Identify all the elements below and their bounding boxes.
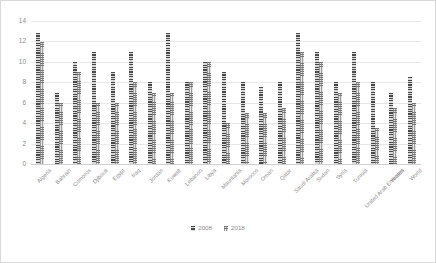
bar-group: [68, 21, 87, 164]
x-tick-cell: Tunisia: [347, 166, 366, 216]
y-tick-label-0: 0: [22, 161, 26, 168]
bar-2018: [77, 72, 81, 164]
x-tick-label: Iraq: [131, 168, 142, 179]
x-tick-cell: Morocco: [235, 166, 254, 216]
x-tick-cell: Algeria: [31, 166, 50, 216]
bar-group: [254, 21, 273, 164]
chart-container: 02468101214 AlgeriaBahrainComorosDjibout…: [0, 0, 436, 263]
bar-group: [198, 21, 217, 164]
bar-group: [403, 21, 422, 164]
bar-group: [180, 21, 199, 164]
x-tick-cell: Saudi Arabia: [291, 166, 310, 216]
bar-2018: [207, 62, 211, 164]
x-tick-cell: Libya: [198, 166, 217, 216]
bar-group: [384, 21, 403, 164]
bar-group: [273, 21, 292, 164]
bar-2018: [393, 108, 397, 164]
bar-group: [87, 21, 106, 164]
bar-2018: [152, 93, 156, 165]
bar-group: [365, 21, 384, 164]
bar-2018: [170, 93, 174, 165]
bar-group: [347, 21, 366, 164]
bar-2018: [226, 123, 230, 164]
x-axis: AlgeriaBahrainComorosDjiboutiEgyptIraqJo…: [31, 166, 421, 216]
y-tick-label-14: 14: [19, 18, 26, 25]
gridline-0: [31, 164, 421, 165]
y-tick-label-4: 4: [22, 120, 26, 127]
bar-2018: [40, 42, 44, 164]
legend-item-2008[interactable]: 2008: [191, 225, 212, 231]
legend-item-2018[interactable]: 2018: [224, 225, 245, 231]
x-tick-cell: Jordan: [142, 166, 161, 216]
bar-group: [50, 21, 69, 164]
x-tick-cell: Oman: [254, 166, 273, 216]
x-tick-cell: United Arab Emirates: [365, 166, 384, 216]
x-tick-cell: Comoros: [68, 166, 87, 216]
bar-groups: [31, 21, 421, 164]
y-tick-label-6: 6: [22, 99, 26, 106]
plot-area: [31, 21, 421, 164]
bar-group: [291, 21, 310, 164]
bar-2018: [263, 113, 267, 164]
bar-2018: [245, 113, 249, 164]
bar-2018: [59, 103, 63, 164]
legend-swatch-2008: [191, 226, 195, 231]
y-axis: 02468101214: [1, 21, 29, 164]
bar-group: [161, 21, 180, 164]
bar-2018: [338, 93, 342, 165]
y-tick-label-12: 12: [19, 38, 26, 45]
bar-2018: [96, 103, 100, 164]
bar-group: [142, 21, 161, 164]
x-tick-cell: Djibouti: [87, 166, 106, 216]
y-tick-label-8: 8: [22, 79, 26, 86]
y-tick-label-2: 2: [22, 140, 26, 147]
x-tick-cell: Yemen: [384, 166, 403, 216]
legend-label-2008: 2008: [198, 225, 212, 231]
bar-2018: [412, 103, 416, 164]
bar-group: [235, 21, 254, 164]
bar-group: [105, 21, 124, 164]
y-tick-label-10: 10: [19, 59, 26, 66]
bar-group: [217, 21, 236, 164]
x-tick-cell: Lebanon: [180, 166, 199, 216]
x-tick-cell: Mauritania: [217, 166, 236, 216]
x-tick-cell: Bahrain: [50, 166, 69, 216]
bar-2018: [282, 108, 286, 164]
legend-label-2018: 2018: [231, 225, 245, 231]
bar-group: [31, 21, 50, 164]
x-tick-cell: Qatar: [273, 166, 292, 216]
bar-group: [328, 21, 347, 164]
x-tick-label: World: [409, 168, 423, 182]
bar-2018: [189, 82, 193, 164]
x-tick-cell: World: [403, 166, 422, 216]
chart-legend: 20082018: [1, 225, 435, 231]
legend-swatch-2018: [224, 226, 228, 231]
bar-group: [310, 21, 329, 164]
x-tick-cell: Kuwait: [161, 166, 180, 216]
bar-2018: [356, 82, 360, 164]
bar-2018: [133, 82, 137, 164]
x-tick-cell: Sudan: [310, 166, 329, 216]
x-tick-cell: Egypt: [105, 166, 124, 216]
x-tick-cell: Syria: [328, 166, 347, 216]
bar-2018: [319, 62, 323, 164]
bar-group: [124, 21, 143, 164]
bar-2018: [300, 52, 304, 164]
bar-2018: [375, 128, 379, 164]
bar-2018: [115, 103, 119, 164]
x-tick-cell: Iraq: [124, 166, 143, 216]
